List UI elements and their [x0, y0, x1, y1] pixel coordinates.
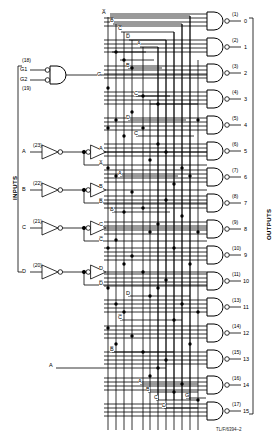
bus-label-mid-1: C [134, 91, 138, 96]
rail-label-a-true: A [99, 146, 103, 151]
output-pin-10: (11) [232, 272, 241, 277]
input-label-a: A [22, 149, 26, 154]
bus-label-mid-5: C [134, 131, 138, 136]
bus-label-top-4: A [137, 41, 141, 46]
input-label-g1: G1 [20, 67, 27, 72]
output-index-14: 14 [243, 383, 249, 388]
output-index-11: 11 [243, 305, 249, 310]
bus-label-low-2: B̅ [110, 347, 114, 352]
output-index-0: 0 [244, 19, 247, 24]
output-pin-1: (2) [232, 38, 238, 43]
inputs-label: INPUTS [12, 176, 18, 200]
output-pin-12: (14) [232, 324, 241, 329]
output-pin-13: (15) [232, 350, 241, 355]
pin-a: (23) [33, 143, 42, 148]
bus-label-low-0: D [126, 291, 130, 296]
rail-label-a-comp: A̅ [99, 161, 103, 166]
rail-label-c-true: C [99, 222, 103, 227]
rail-label-b-true: B [99, 184, 103, 189]
pin-b: (22) [33, 181, 42, 186]
bus-label-low-4: A [138, 379, 142, 384]
inputs-bracket [18, 66, 22, 272]
output-pin-0: (1) [232, 12, 238, 17]
output-index-13: 13 [243, 357, 249, 362]
rail-label-c-comp: C̅ [99, 237, 103, 242]
output-pin-8: (9) [232, 220, 238, 225]
bus-label-mid-0: B [126, 63, 130, 68]
bus-label-mid-4: B [110, 207, 114, 212]
bus-label-top-0: A̅ [102, 10, 106, 15]
pin-d: (20) [33, 263, 42, 268]
output-nand-array [104, 12, 241, 420]
output-pin-11: (13) [232, 298, 241, 303]
enable-and-gate [30, 66, 207, 84]
output-pin-14: (16) [232, 376, 241, 381]
outputs-bracket [249, 18, 253, 414]
logic-diagram-figure: (18) G1 G2 (19) G (23) A (22) B (21) C (… [0, 0, 275, 437]
input-inverter-bank [30, 145, 207, 285]
outputs-label: OUTPUTS [266, 209, 272, 240]
output-index-5: 5 [244, 149, 247, 154]
pin-c: (21) [33, 219, 42, 224]
output-pin-3: (4) [232, 90, 238, 95]
figure-caption: TL/F/6394–2 [216, 427, 242, 432]
bus-label-low-7: D [162, 403, 166, 408]
output-pin-5: (6) [232, 142, 238, 147]
bus-label-top-3: D̅ [126, 34, 130, 39]
output-index-15: 15 [243, 409, 249, 414]
pin-g1: (18) [22, 58, 31, 63]
output-pin-7: (8) [232, 194, 238, 199]
bus-label-mid-2: D [126, 115, 130, 120]
pin-g2: (19) [22, 86, 31, 91]
output-pin-4: (5) [232, 116, 238, 121]
output-pin-6: (7) [232, 168, 238, 173]
bus-label-low-6: C [154, 395, 158, 400]
output-index-1: 1 [244, 45, 247, 50]
enable-output-label: G [97, 72, 101, 77]
rail-label-d-true: D [99, 266, 103, 271]
input-label-b: B [22, 187, 26, 192]
output-index-3: 3 [244, 97, 247, 102]
output-pin-9: (10) [232, 246, 241, 251]
input-label-c: C [22, 225, 26, 230]
bus-label-top-2: C̅ [118, 26, 122, 31]
input-label-d: D [22, 269, 26, 274]
bus-label-mid-3: A [118, 171, 122, 176]
rail-label-d-comp: D̅ [99, 281, 103, 286]
output-index-12: 12 [243, 331, 249, 336]
output-index-2: 2 [244, 71, 247, 76]
bus-label-low-8: G [185, 393, 189, 398]
rail-label-b-comp: B̅ [99, 199, 103, 204]
output-index-4: 4 [244, 123, 247, 128]
bus-label-top-1: B̅ [110, 18, 114, 23]
bus-label-low-1: C̅ [118, 315, 122, 320]
input-label-g2: G2 [20, 77, 27, 82]
output-index-8: 8 [244, 227, 247, 232]
bus-label-low-5: B [146, 387, 150, 392]
bus-label-low-3: A [49, 363, 53, 368]
output-index-6: 6 [244, 175, 247, 180]
output-index-7: 7 [244, 201, 247, 206]
output-index-9: 9 [244, 253, 247, 258]
output-index-10: 10 [243, 279, 249, 284]
output-pin-2: (3) [232, 64, 238, 69]
output-pin-15: (17) [232, 402, 241, 407]
